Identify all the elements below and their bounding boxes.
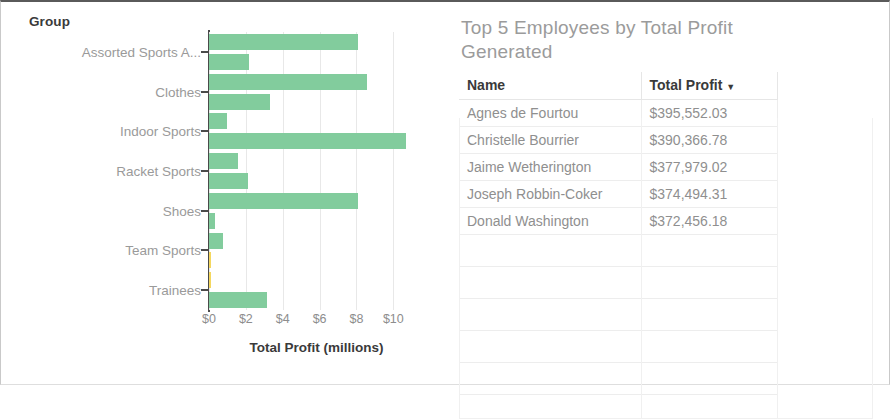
table-empty-row	[459, 235, 777, 267]
cell-employee-name[interactable]: Agnes de Fourtou	[459, 100, 641, 127]
cell-empty	[641, 235, 777, 267]
column-header-total-profit-label: Total Profit	[650, 77, 723, 93]
cell-empty	[459, 331, 641, 363]
x-axis-tick-label: $8	[350, 312, 364, 326]
cell-employee-name[interactable]: Joseph Robbin-Coker	[459, 181, 641, 208]
cell-employee-name[interactable]: Jaime Wetherington	[459, 154, 641, 181]
cell-empty	[459, 299, 641, 331]
total-profit-by-group-chart[interactable]: Group Assorted Sports A...ClothesIndoor …	[1, 2, 451, 385]
chart-bar[interactable]	[209, 252, 211, 268]
table-empty-row	[459, 299, 777, 331]
table-row[interactable]: Christelle Bourrier$390,366.78	[459, 127, 777, 154]
x-axis-title: Total Profit (millions)	[209, 340, 424, 355]
chart-bar[interactable]	[209, 153, 238, 169]
table-empty-row	[459, 331, 777, 363]
cell-empty	[641, 267, 777, 299]
y-axis-tick	[201, 249, 208, 251]
table-empty-row	[459, 363, 777, 395]
x-axis-tick-labels: $0$2$4$6$8$10	[1, 312, 451, 332]
x-axis-tick-label: $4	[276, 312, 290, 326]
cell-employee-name[interactable]: Donald Washington	[459, 208, 641, 235]
y-axis-tick	[201, 170, 208, 172]
table-empty-row	[459, 267, 777, 299]
category-label[interactable]: Trainees	[15, 283, 201, 298]
category-label[interactable]: Team Sports	[15, 243, 201, 258]
cell-total-profit[interactable]: $390,366.78	[641, 127, 777, 154]
column-header-name-label: Name	[467, 77, 505, 93]
table-title: Top 5 Employees by Total Profit Generate…	[461, 16, 801, 64]
chart-bar[interactable]	[209, 94, 270, 110]
chart-bar[interactable]	[209, 272, 211, 288]
category-label[interactable]: Indoor Sports	[15, 124, 201, 139]
table-row[interactable]: Agnes de Fourtou$395,552.03	[459, 100, 777, 127]
chart-bar[interactable]	[209, 34, 358, 50]
category-label[interactable]: Racket Sports	[15, 164, 201, 179]
y-axis-tick	[201, 210, 208, 212]
chart-bar[interactable]	[209, 193, 358, 209]
top-employees-panel: Top 5 Employees by Total Profit Generate…	[459, 16, 871, 371]
chart-gridline	[393, 32, 394, 310]
y-axis-tick	[201, 51, 208, 53]
chart-bar[interactable]	[209, 133, 406, 149]
cell-empty	[459, 363, 641, 395]
sort-descending-icon[interactable]: ▼	[726, 82, 735, 92]
y-axis-tick	[201, 91, 208, 93]
table-row[interactable]: Joseph Robbin-Coker$374,494.31	[459, 181, 777, 208]
cell-empty	[641, 331, 777, 363]
cell-employee-name[interactable]: Christelle Bourrier	[459, 127, 641, 154]
cell-empty	[459, 267, 641, 299]
chart-bar[interactable]	[209, 213, 215, 229]
x-axis-tick-label: $10	[383, 312, 404, 326]
chart-bar[interactable]	[209, 54, 249, 70]
cell-total-profit[interactable]: $377,979.02	[641, 154, 777, 181]
cell-empty	[641, 299, 777, 331]
chart-bar[interactable]	[209, 74, 367, 90]
column-header-name[interactable]: Name	[459, 72, 641, 100]
cell-total-profit[interactable]: $395,552.03	[641, 100, 777, 127]
cell-empty	[459, 235, 641, 267]
x-axis-tick-label: $6	[313, 312, 327, 326]
column-header-total-profit[interactable]: Total Profit▼	[641, 72, 777, 100]
top-employees-table[interactable]: Name Total Profit▼ Agnes de Fourtou$395,…	[459, 72, 778, 395]
cell-total-profit[interactable]: $374,494.31	[641, 181, 777, 208]
y-axis-tick	[201, 289, 208, 291]
chart-bar[interactable]	[209, 173, 248, 189]
table-header-row: Name Total Profit▼	[459, 72, 777, 100]
table-row[interactable]: Jaime Wetherington$377,979.02	[459, 154, 777, 181]
x-axis-tick-label: $2	[239, 312, 253, 326]
category-label[interactable]: Clothes	[15, 84, 201, 99]
chart-bar[interactable]	[209, 292, 267, 308]
x-axis-tick-label: $0	[202, 312, 216, 326]
category-label[interactable]: Assorted Sports A...	[15, 44, 201, 59]
chart-plot-area	[209, 32, 421, 310]
cell-empty	[641, 363, 777, 395]
table-row[interactable]: Donald Washington$372,456.18	[459, 208, 777, 235]
cell-total-profit[interactable]: $372,456.18	[641, 208, 777, 235]
y-axis-tick	[201, 130, 208, 132]
chart-bar[interactable]	[209, 113, 227, 129]
category-label[interactable]: Shoes	[15, 203, 201, 218]
chart-bar[interactable]	[209, 233, 223, 249]
